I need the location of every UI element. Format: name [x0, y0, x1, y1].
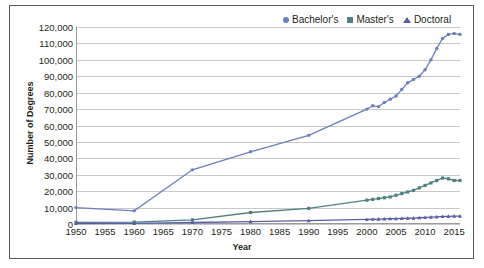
- data-point: [447, 177, 450, 180]
- data-point: [365, 107, 368, 110]
- legend-item-doctoral[interactable]: Doctoral: [403, 15, 451, 25]
- plot-wrapper: [76, 27, 460, 224]
- x-axis-tick-label: 2015: [444, 226, 465, 237]
- y-axis-tick-label: 60,000: [44, 120, 73, 131]
- data-point: [423, 68, 426, 71]
- data-point: [249, 150, 252, 153]
- data-point: [132, 209, 135, 212]
- x-axis-tick-label: 2005: [385, 226, 406, 237]
- data-point: [371, 104, 374, 107]
- x-axis-tick-label: 1960: [124, 226, 145, 237]
- data-point: [441, 176, 444, 179]
- data-point: [406, 190, 409, 193]
- data-point: [394, 194, 397, 197]
- x-axis-tick-label: 1990: [298, 226, 319, 237]
- x-axis-tick-label: 1955: [95, 226, 116, 237]
- y-axis-tick-label: 90,000: [44, 71, 73, 82]
- data-point: [377, 197, 380, 200]
- chart-container: Bachelor'sMaster'sDoctoral Number of Deg…: [0, 0, 484, 268]
- data-point: [435, 179, 438, 182]
- circle-marker-icon: [283, 17, 289, 23]
- x-axis-tick-labels: 1950195519601965197019751980198519901995…: [76, 226, 460, 240]
- data-point: [389, 195, 392, 198]
- data-point: [429, 181, 432, 184]
- data-point: [377, 105, 380, 108]
- x-axis-tick-label: 1995: [327, 226, 348, 237]
- data-point: [388, 98, 391, 101]
- series-layer: [76, 27, 460, 224]
- data-point: [453, 179, 456, 182]
- data-point: [307, 134, 310, 137]
- data-point: [191, 168, 194, 171]
- data-point: [458, 33, 461, 36]
- y-axis-tick-label: 20,000: [44, 186, 73, 197]
- data-point: [400, 88, 403, 91]
- data-point: [412, 78, 415, 81]
- data-point: [418, 186, 421, 189]
- y-axis-tick-label: 100,000: [39, 54, 73, 65]
- y-axis-tick-label: 40,000: [44, 153, 73, 164]
- y-axis-tick-label: 70,000: [44, 104, 73, 115]
- chart-legend: Bachelor'sMaster'sDoctoral: [283, 13, 451, 27]
- legend-label: Master's: [356, 15, 393, 25]
- x-axis-tick-label: 2000: [356, 226, 377, 237]
- y-axis-tick-label: 120,000: [39, 22, 73, 33]
- data-point: [429, 58, 432, 61]
- y-axis-tick-labels: 120,000110,000100,00090,00080,00070,0006…: [0, 27, 73, 224]
- x-axis-tick-label: 1965: [153, 226, 174, 237]
- data-point: [447, 33, 450, 36]
- legend-item-bachelors[interactable]: Bachelor's: [283, 15, 338, 25]
- x-axis-tick-label: 1970: [182, 226, 203, 237]
- data-point: [406, 81, 409, 84]
- y-axis-tick-label: 110,000: [39, 38, 73, 49]
- y-axis-tick-label: 80,000: [44, 87, 73, 98]
- data-point: [418, 75, 421, 78]
- data-point: [412, 189, 415, 192]
- triangle-marker-icon: [403, 17, 411, 23]
- legend-item-masters[interactable]: Master's: [347, 15, 393, 25]
- square-marker-icon: [347, 17, 353, 23]
- legend-label: Doctoral: [414, 15, 451, 25]
- data-point: [365, 199, 368, 202]
- series-line-bachelors: [76, 34, 460, 211]
- data-point: [74, 206, 77, 209]
- data-point: [394, 94, 397, 97]
- data-point: [441, 37, 444, 40]
- y-axis-tick-label: 50,000: [44, 136, 73, 147]
- data-point: [423, 184, 426, 187]
- x-axis-tick-label: 1975: [211, 226, 232, 237]
- x-axis-tick-label: 2010: [415, 226, 436, 237]
- data-point: [371, 198, 374, 201]
- x-axis-tick-label: 1980: [240, 226, 261, 237]
- data-point: [307, 207, 310, 210]
- data-point: [383, 101, 386, 104]
- series-line-masters: [76, 178, 460, 222]
- y-axis-tick-label: 10,000: [44, 202, 73, 213]
- data-point: [435, 47, 438, 50]
- x-axis-title: Year: [0, 242, 484, 252]
- x-axis-tick-label: 1985: [269, 226, 290, 237]
- y-axis-tick-label: 30,000: [44, 169, 73, 180]
- data-point: [400, 192, 403, 195]
- data-point: [458, 179, 461, 182]
- data-point: [249, 211, 252, 214]
- data-point: [383, 196, 386, 199]
- x-axis-tick-label: 1950: [65, 226, 86, 237]
- legend-label: Bachelor's: [292, 15, 338, 25]
- data-point: [452, 32, 455, 35]
